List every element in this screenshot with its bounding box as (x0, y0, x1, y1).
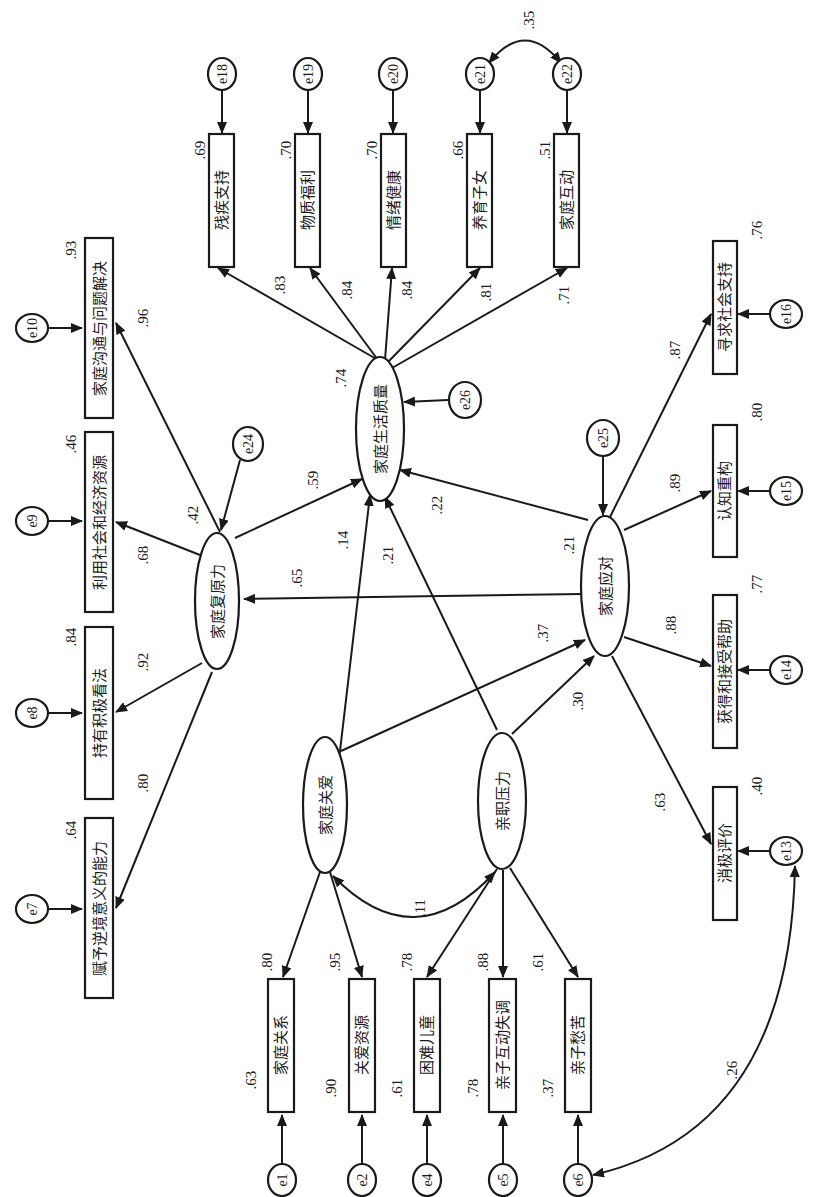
r2-label: .70 (278, 141, 294, 160)
error-e22: e22 (553, 58, 581, 90)
covariance-label: .26 (724, 1060, 740, 1079)
svg-text:e1: e1 (275, 1173, 290, 1186)
indicator-label: 家庭关系 (272, 1015, 290, 1075)
indicator-label: 家庭互动 (558, 170, 576, 230)
indicator-label: 情绪健康 (385, 170, 403, 230)
r2-label: .40 (749, 777, 765, 796)
r2-label: .93 (63, 241, 79, 260)
sem-path-diagram: 残疾支持 物质福利 情绪健康 养育子女 家庭互动 e18 e19 e20 e21… (0, 0, 831, 1197)
loading-label: .83 (272, 276, 288, 295)
r2-label: .37 (540, 1078, 556, 1097)
path-家庭应对-家庭复原力 (244, 594, 583, 599)
latent-label: 家庭应对 (597, 556, 615, 616)
indicator-label: 困难儿童 (418, 1015, 436, 1075)
r2-label: .76 (749, 220, 765, 239)
svg-text:e16: e16 (779, 304, 794, 324)
path-家庭复原力-家庭生活质量 (235, 479, 362, 538)
indicator-label: 持有积极看法 (91, 668, 109, 758)
r2-label: .42 (185, 506, 201, 525)
loading-label: .84 (399, 280, 415, 299)
loading-label: .78 (399, 953, 415, 972)
indicator-label: 家庭沟通与问题解决 (91, 261, 109, 396)
loading-edge-认知重构 (624, 491, 711, 530)
error-e10: e10 (16, 314, 48, 342)
path-coef-label: .37 (535, 623, 551, 642)
indicator-获得和接受帮助: 获得和接受帮助 (713, 595, 737, 748)
indicator-label: 物质福利 (299, 170, 317, 230)
svg-text:e10: e10 (25, 318, 40, 338)
indicator-家庭互动: 家庭互动 (554, 134, 579, 267)
error-e21: e21 (466, 58, 494, 90)
svg-text:e21: e21 (473, 64, 488, 84)
error-e13: e13 (770, 837, 802, 865)
indicator-label: 残疾支持 (213, 170, 231, 230)
svg-text:e15: e15 (779, 481, 794, 501)
indicator-label: 认知重构 (716, 461, 734, 521)
indicator-label: 亲子互动失调 (494, 1000, 512, 1090)
svg-text:e25: e25 (596, 428, 611, 448)
path-coef-label: .21 (380, 546, 396, 565)
covariance-label: .11 (412, 899, 428, 917)
error-e7: e7 (16, 895, 48, 923)
latent-亲职压力: 亲职压力 (478, 733, 526, 869)
loading-edge-家庭沟通与问题解决 (116, 323, 220, 532)
indicator-残疾支持: 残疾支持 (209, 134, 234, 267)
indicator-利用社会和经济资源: 利用社会和经济资源 (85, 432, 113, 612)
latent-家庭生活质量: 家庭生活质量 (356, 357, 404, 501)
indicator-消极评价: 消极评价 (713, 787, 737, 920)
indicator-label: 养育子女 (471, 170, 489, 230)
loading-label: .92 (135, 653, 151, 672)
loading-edge-持有积极看法 (116, 663, 202, 712)
latent-label: 亲职压力 (494, 771, 512, 831)
svg-text:e18: e18 (215, 64, 230, 84)
error-e1: e1 (268, 1164, 296, 1196)
error-e9: e9 (16, 507, 48, 535)
error-e2: e2 (348, 1164, 376, 1196)
indicator-物质福利: 物质福利 (295, 134, 320, 267)
latent-label: 家庭复原力 (209, 564, 227, 639)
error-edge-e26 (404, 400, 448, 402)
r2-label: .90 (323, 1079, 339, 1098)
latent-家庭应对: 家庭应对 (581, 516, 629, 656)
path-coef-label: .65 (289, 569, 305, 588)
loading-label: .88 (475, 953, 491, 972)
indicator-关爱资源: 关爱资源 (349, 979, 375, 1112)
error-e5: e5 (489, 1164, 517, 1196)
r2-label: .61 (389, 1079, 405, 1098)
r2-label: .70 (364, 141, 380, 160)
r2-label: .69 (192, 141, 208, 160)
loading-label: .61 (530, 953, 546, 972)
error-e8: e8 (16, 699, 48, 727)
indicator-赋予逆境意义的能力: 赋予逆境意义的能力 (85, 818, 113, 998)
latent-家庭关爱: 家庭关爱 (303, 737, 347, 873)
indicator-困难儿童: 困难儿童 (414, 979, 440, 1112)
loading-label: .95 (327, 953, 343, 972)
indicator-家庭沟通与问题解决: 家庭沟通与问题解决 (85, 238, 113, 418)
latent-label: 家庭生活质量 (372, 384, 390, 474)
loading-edge-情绪健康 (385, 268, 392, 360)
loading-edge-消极评价 (612, 656, 711, 844)
loading-edge-获得和接受帮助 (624, 637, 711, 666)
error-e24: e24 (233, 427, 263, 461)
svg-text:e7: e7 (25, 902, 40, 915)
path-coef-label: .22 (429, 496, 445, 515)
r2-label: .77 (749, 574, 765, 593)
latent-label: 家庭关爱 (317, 775, 335, 835)
loading-label: .89 (667, 474, 683, 493)
svg-text:e4: e4 (420, 1173, 435, 1186)
latent-家庭复原力: 家庭复原力 (195, 533, 239, 669)
loading-edge-寻求社会支持 (610, 314, 711, 517)
loading-label: .68 (135, 546, 151, 565)
loading-edge-赋予逆境意义的能力 (116, 672, 212, 908)
error-e14: e14 (770, 656, 802, 684)
svg-text:e19: e19 (301, 64, 316, 84)
indicator-寻求社会支持: 寻求社会支持 (713, 241, 737, 374)
path-coef-label: .14 (335, 530, 351, 549)
svg-text:e5: e5 (496, 1173, 511, 1186)
indicator-label: 寻求社会支持 (716, 262, 734, 352)
r2-label: .51 (537, 141, 553, 160)
indicator-label: 利用社会和经济资源 (91, 455, 109, 590)
svg-text:e26: e26 (458, 390, 473, 410)
loading-label: .84 (339, 280, 355, 299)
loading-label: .88 (663, 616, 679, 635)
